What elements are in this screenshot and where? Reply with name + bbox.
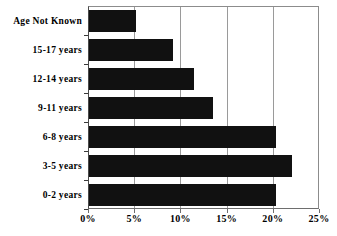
y-axis-label: 15-17 years — [0, 44, 82, 56]
plot-area — [88, 6, 319, 209]
x-axis-label: 20% — [253, 213, 293, 224]
bar-row — [88, 10, 319, 32]
y-axis-label: Age Not Known — [0, 15, 82, 27]
bar-3-5-years — [88, 155, 292, 177]
bar-6-8-years — [88, 126, 276, 148]
bar-12-14-years — [88, 68, 194, 90]
bar-chart: Age Not Known15-17 years12-14 years9-11 … — [0, 0, 337, 236]
y-axis-label: 0-2 years — [0, 189, 82, 201]
bar-row — [88, 39, 319, 61]
bar-row — [88, 68, 319, 90]
y-axis-label: 9-11 years — [0, 102, 82, 114]
bar-row — [88, 97, 319, 119]
bar-row — [88, 155, 319, 177]
y-axis-label: 12-14 years — [0, 73, 82, 85]
bar-0-2-years — [88, 184, 276, 206]
x-axis-label: 0% — [68, 213, 108, 224]
bar-age-not-known — [88, 10, 136, 32]
y-axis-label: 6-8 years — [0, 131, 82, 143]
y-axis-label: 3-5 years — [0, 160, 82, 172]
x-axis-label: 5% — [114, 213, 154, 224]
x-axis-label: 25% — [299, 213, 337, 224]
x-axis-label: 15% — [207, 213, 247, 224]
bar-15-17-years — [88, 39, 173, 61]
bar-row — [88, 184, 319, 206]
x-axis-label: 10% — [160, 213, 200, 224]
bar-row — [88, 126, 319, 148]
bar-9-11-years — [88, 97, 213, 119]
